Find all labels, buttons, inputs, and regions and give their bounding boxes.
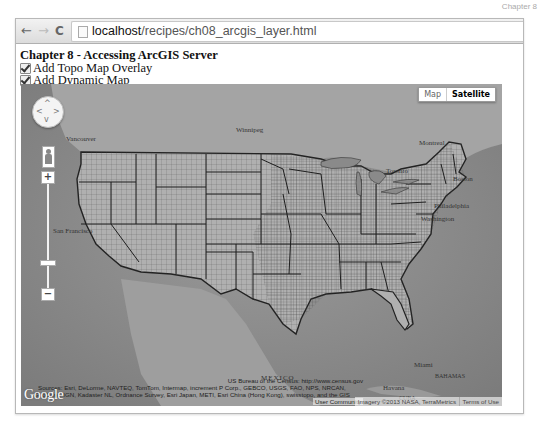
street-view-pegman-icon[interactable] xyxy=(42,146,55,168)
map-type-control: Map Satellite xyxy=(418,87,496,102)
terms-of-use-link[interactable]: Terms of Use xyxy=(459,397,502,406)
browser-toolbar: ← → C localhost/recipes/ch08_arcgis_laye… xyxy=(16,19,523,44)
place-label: Havana xyxy=(383,384,404,392)
zoom-in-button[interactable]: + xyxy=(41,171,55,184)
attribution-census: US Bureau of the Census: http://www.cens… xyxy=(228,377,363,384)
place-label: Winnipeg xyxy=(236,126,263,134)
chapter-label: Chapter 8 xyxy=(502,2,537,11)
page-icon xyxy=(78,26,88,38)
place-label: Montreal xyxy=(419,139,445,147)
zoom-slider-track[interactable] xyxy=(47,180,49,288)
zoom-out-button[interactable]: − xyxy=(41,288,55,301)
pan-left-icon[interactable]: < xyxy=(36,108,43,116)
map-type-satellite-button[interactable]: Satellite xyxy=(447,88,495,101)
place-label: Philadelphia xyxy=(434,202,469,210)
address-bar[interactable]: localhost/recipes/ch08_arcgis_layer.html xyxy=(71,21,523,42)
place-label: Boston xyxy=(453,175,473,183)
attribution-sources-2: GeoBase, IGN, Kadaster NL, Ordnance Surv… xyxy=(34,391,350,398)
map-type-map-button[interactable]: Map xyxy=(419,88,447,101)
google-logo[interactable]: Google xyxy=(24,387,63,403)
pan-down-icon[interactable]: v xyxy=(44,116,49,124)
pan-control[interactable]: ^ < > v xyxy=(32,96,64,128)
place-label: Toronto xyxy=(386,167,408,175)
url-text[interactable]: localhost/recipes/ch08_arcgis_layer.html xyxy=(92,24,316,38)
reload-icon[interactable]: C xyxy=(55,23,64,39)
map-canvas[interactable]: Vancouver Winnipeg Montreal Toronto Bost… xyxy=(21,84,502,406)
attribution-sources: Sources: Esri, DeLorme, NAVTEQ, TomTom, … xyxy=(38,384,346,391)
forward-arrow-icon[interactable]: → xyxy=(38,23,49,39)
zoom-slider-thumb[interactable] xyxy=(40,260,56,266)
place-label: Washington xyxy=(421,215,454,223)
place-label: Miami xyxy=(414,361,433,369)
pan-up-icon[interactable]: ^ xyxy=(44,100,51,108)
place-label: San Francisco xyxy=(53,227,92,235)
pan-right-icon[interactable]: > xyxy=(53,108,60,116)
page-content: Chapter 8 - Accessing ArcGIS Server Add … xyxy=(16,44,523,413)
imagery-credit: Imagery ©2013 NASA, TerraMetrics xyxy=(355,397,459,406)
browser-window: ← → C localhost/recipes/ch08_arcgis_laye… xyxy=(15,18,524,414)
place-label: Vancouver xyxy=(66,135,96,143)
place-label: BAHAMAS xyxy=(435,373,465,379)
back-arrow-icon[interactable]: ← xyxy=(21,23,32,39)
